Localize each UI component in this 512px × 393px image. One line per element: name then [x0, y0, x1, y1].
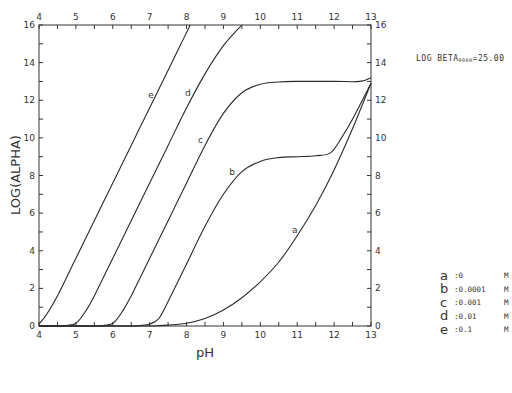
x-tick-label: 12 [328, 330, 339, 340]
legend-value: :0 [454, 271, 504, 280]
x-tick-label: 8 [184, 330, 190, 340]
log-beta-annotation: LOG BETA0000=25.00 [416, 54, 504, 63]
y-tick-label: 4 [29, 246, 35, 256]
x-tick-label: 7 [147, 330, 153, 340]
legend-key: e [440, 325, 454, 335]
y-tick-label-right: 12 [375, 95, 386, 105]
legend-value: :0.001 [454, 298, 504, 307]
legend-item-a: a :0 M [440, 269, 512, 283]
legend-item-d: d :0.01 M [440, 310, 512, 324]
x-tick-label-top: 7 [147, 12, 153, 22]
y-tick-label-right: 10 [375, 133, 387, 143]
curve-labels: abcde [148, 88, 297, 235]
legend-unit: M [504, 271, 512, 280]
curve-label-d: d [185, 88, 191, 98]
x-tick-label: 4 [36, 330, 42, 340]
legend-value: :0.01 [454, 312, 504, 321]
x-tick-label-top: 8 [184, 12, 190, 22]
curve-e [39, 25, 190, 324]
y-tick-label: 14 [24, 58, 36, 68]
curve-a [150, 83, 371, 326]
plot-frame [39, 25, 371, 326]
legend: a :0 M b :0.0001 M c :0.001 M d :0.01 M … [440, 269, 512, 337]
y-tick-label: 16 [24, 20, 36, 30]
curve-label-e: e [148, 90, 154, 100]
y-tick-label: 6 [29, 208, 35, 218]
annotation-prefix: LOG BETA [416, 54, 459, 63]
legend-item-e: e :0.1 M [440, 323, 512, 337]
x-tick-label: 6 [110, 330, 116, 340]
y-tick-label: 12 [24, 95, 35, 105]
axes: 4455667788991010111112121313002244668810… [24, 12, 387, 340]
legend-key: c [440, 298, 454, 308]
legend-unit: M [504, 325, 512, 334]
curve-label-b: b [229, 167, 235, 177]
curve-label-a: a [292, 225, 298, 235]
x-tick-label-top: 5 [73, 12, 79, 22]
curve-c [98, 78, 371, 326]
annotation-suffix: =25.00 [473, 54, 505, 63]
y-tick-label: 2 [29, 283, 35, 293]
y-tick-label-right: 4 [375, 246, 381, 256]
x-tick-label: 13 [365, 330, 376, 340]
y-tick-label-right: 16 [375, 20, 387, 30]
x-tick-label: 11 [291, 330, 302, 340]
legend-unit: M [504, 285, 512, 294]
legend-key: d [440, 311, 454, 321]
x-tick-label: 10 [255, 330, 267, 340]
curve-label-c: c [198, 135, 203, 145]
y-tick-label-right: 2 [375, 283, 381, 293]
y-tick-label: 10 [24, 133, 36, 143]
curve-d [61, 25, 242, 326]
legend-unit: M [504, 298, 512, 307]
x-tick-label-top: 9 [221, 12, 227, 22]
curves [39, 25, 371, 326]
annotation-subscript: 0000 [459, 57, 473, 63]
y-tick-label: 0 [29, 321, 35, 331]
legend-item-c: c :0.001 M [440, 296, 512, 310]
legend-key: b [440, 284, 454, 294]
x-tick-label-top: 10 [255, 12, 267, 22]
curve-b [135, 83, 371, 326]
x-tick-label-top: 6 [110, 12, 116, 22]
y-tick-label: 8 [29, 171, 35, 181]
y-tick-label-right: 6 [375, 208, 381, 218]
x-tick-label-top: 4 [36, 12, 42, 22]
y-tick-label-right: 8 [375, 171, 381, 181]
x-tick-label: 5 [73, 330, 79, 340]
y-tick-label-right: 0 [375, 321, 381, 331]
legend-unit: M [504, 312, 512, 321]
x-tick-label-top: 11 [291, 12, 302, 22]
y-axis-title: LOG(ALPHA) [8, 135, 23, 215]
legend-item-b: b :0.0001 M [440, 283, 512, 297]
x-tick-label-top: 12 [328, 12, 339, 22]
legend-value: :0.1 [454, 325, 504, 334]
y-tick-label-right: 14 [375, 58, 387, 68]
x-axis-title: pH [196, 345, 214, 360]
x-tick-label: 9 [221, 330, 227, 340]
legend-value: :0.0001 [454, 285, 504, 294]
legend-key: a [440, 271, 454, 281]
